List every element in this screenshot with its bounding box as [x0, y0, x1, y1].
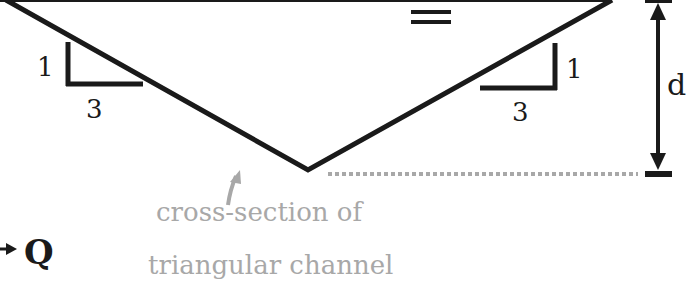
- flow-arrow-icon: [0, 243, 17, 255]
- right-slope-rise: 1: [566, 54, 583, 84]
- flow-label: Q: [24, 232, 54, 272]
- annotation-line-1: cross-section of: [156, 197, 364, 227]
- annotation-line-2: triangular channel: [148, 250, 393, 280]
- left-slope-rise: 1: [37, 52, 54, 82]
- left-slope-indicator: [66, 42, 143, 86]
- left-slope-run: 3: [86, 94, 103, 124]
- water-surface-icon: [411, 10, 451, 24]
- right-slope-run: 3: [512, 97, 529, 127]
- triangular-channel-diagram: 1 3 1 3 d cross-section of triangular ch…: [0, 0, 693, 284]
- depth-label: d: [667, 67, 686, 102]
